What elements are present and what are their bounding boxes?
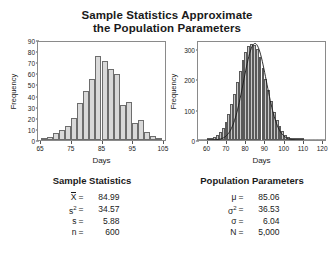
stats-value: 34.57 bbox=[86, 202, 120, 216]
population-bars bbox=[198, 42, 325, 140]
sample-x-tick-label: 95 bbox=[129, 145, 136, 152]
sample-x-tick-label: 75 bbox=[67, 145, 74, 152]
sample-x-tick-mark bbox=[40, 141, 41, 144]
population-plot-area bbox=[197, 41, 326, 141]
stats-exponent: 2 bbox=[73, 205, 76, 211]
sample-y-tick-label: 80 bbox=[28, 49, 35, 56]
sample-x-ticks: 65758595105 bbox=[37, 141, 166, 157]
sample-y-tick-label: 30 bbox=[28, 104, 35, 111]
population-stats-table: μ=85.06σ2=36.53σ=6.04N=5,000 bbox=[215, 191, 280, 238]
population-x-ticks: 60708090100110120 bbox=[197, 141, 326, 157]
population-x-tick-label: 80 bbox=[242, 145, 249, 152]
sample-x-axis-label: Days bbox=[37, 156, 166, 165]
sample-x-tick-mark bbox=[71, 141, 72, 144]
stats-symbol: s bbox=[55, 216, 77, 227]
figure-title: Sample Statistics Approximate the Popula… bbox=[0, 0, 334, 35]
stats-row: σ2=36.53 bbox=[215, 202, 280, 216]
sample-y-axis-label: Frequency bbox=[8, 41, 20, 141]
population-y-axis-label-text: Frequency bbox=[170, 73, 179, 108]
population-x-tick-mark bbox=[264, 141, 265, 144]
stats-row: s=5.88 bbox=[55, 216, 120, 227]
sample-x-tick-mark bbox=[132, 141, 133, 144]
population-x-tick-label: 120 bbox=[317, 145, 328, 152]
population-x-tick-mark bbox=[284, 141, 285, 144]
sample-y-tick-label: 70 bbox=[28, 60, 35, 67]
sample-y-tick-label: 10 bbox=[28, 126, 35, 133]
stats-row: s2=34.57 bbox=[55, 202, 120, 216]
stats-equals: = bbox=[237, 191, 246, 202]
sample-y-tick-label: 50 bbox=[28, 82, 35, 89]
sample-y-axis-label-text: Frequency bbox=[10, 73, 19, 108]
sample-x-tick-mark bbox=[163, 141, 164, 144]
stats-equals: = bbox=[77, 216, 86, 227]
stats-symbol: μ bbox=[215, 191, 237, 202]
population-y-axis-label: Frequency bbox=[168, 41, 180, 141]
title-line-2: the Population Parameters bbox=[0, 22, 334, 35]
population-y-ticks: 0100200300 bbox=[180, 41, 197, 141]
sample-y-tick-label: 40 bbox=[28, 93, 35, 100]
population-y-tick-label: 0 bbox=[191, 138, 195, 145]
population-x-tick-label: 100 bbox=[278, 145, 289, 152]
population-panel: Frequency 0100200300 60708090100110120 D… bbox=[168, 41, 326, 238]
stats-value: 85.06 bbox=[246, 191, 280, 202]
stats-value: 36.53 bbox=[246, 202, 280, 216]
stats-value: 5.88 bbox=[86, 216, 120, 227]
population-x-axis-label: Days bbox=[197, 156, 326, 165]
sample-x-tick-mark bbox=[102, 141, 103, 144]
stats-symbol: s2 bbox=[55, 202, 77, 216]
stats-value: 6.04 bbox=[246, 216, 280, 227]
population-y-tick-label: 300 bbox=[184, 47, 195, 54]
stats-row: n=600 bbox=[55, 227, 120, 238]
stats-equals: = bbox=[77, 202, 86, 216]
stats-symbol: σ bbox=[215, 216, 237, 227]
stats-symbol: n bbox=[55, 227, 77, 238]
stats-row: X=84.99 bbox=[55, 191, 120, 202]
stats-symbol: N bbox=[215, 227, 237, 238]
histogram-bar bbox=[301, 138, 304, 140]
sample-x-tick-label: 85 bbox=[98, 145, 105, 152]
population-y-tick-label: 200 bbox=[184, 77, 195, 84]
histogram-bar bbox=[156, 138, 162, 140]
sample-y-tick-label: 20 bbox=[28, 115, 35, 122]
population-x-tick-mark bbox=[226, 141, 227, 144]
population-y-tick-label: 100 bbox=[184, 107, 195, 114]
population-stats-heading: Population Parameters bbox=[178, 175, 326, 186]
stats-value: 84.99 bbox=[86, 191, 120, 202]
population-x-tick-label: 70 bbox=[222, 145, 229, 152]
sample-plot-area bbox=[37, 41, 166, 141]
stats-row: σ=6.04 bbox=[215, 216, 280, 227]
charts-row: Frequency 0102030405060708090 6575859510… bbox=[0, 41, 334, 238]
stats-equals: = bbox=[77, 227, 86, 238]
stats-value: 600 bbox=[86, 227, 120, 238]
stats-equals: = bbox=[237, 202, 246, 216]
sample-y-ticks: 0102030405060708090 bbox=[20, 41, 37, 141]
sample-stats-body: X=84.99s2=34.57s=5.88n=600 bbox=[55, 191, 120, 238]
sample-y-tick-label: 0 bbox=[31, 138, 35, 145]
population-stats-body: μ=85.06σ2=36.53σ=6.04N=5,000 bbox=[215, 191, 280, 238]
sample-x-tick-label: 65 bbox=[36, 145, 43, 152]
population-x-tick-label: 110 bbox=[298, 145, 308, 152]
stats-row: N=5,000 bbox=[215, 227, 280, 238]
population-x-tick-mark bbox=[245, 141, 246, 144]
stats-equals: = bbox=[77, 191, 86, 202]
sample-y-tick-label: 90 bbox=[28, 38, 35, 45]
sample-x-tick-label: 105 bbox=[157, 145, 168, 152]
population-x-tick-label: 60 bbox=[203, 145, 210, 152]
sample-bars bbox=[38, 42, 165, 140]
population-chart: Frequency 0100200300 bbox=[168, 41, 326, 141]
population-x-tick-mark bbox=[303, 141, 304, 144]
stats-symbol: X bbox=[55, 191, 77, 202]
title-line-1: Sample Statistics Approximate bbox=[0, 9, 334, 22]
stats-equals: = bbox=[237, 216, 246, 227]
population-x-tick-mark bbox=[207, 141, 208, 144]
sample-stats-table: X=84.99s2=34.57s=5.88n=600 bbox=[55, 191, 120, 238]
population-x-tick-label: 90 bbox=[261, 145, 268, 152]
stats-symbol: σ2 bbox=[215, 202, 237, 216]
sample-stats-heading: Sample Statistics bbox=[18, 175, 166, 186]
overbar bbox=[71, 192, 76, 193]
stats-value: 5,000 bbox=[246, 227, 280, 238]
stats-equals: = bbox=[237, 227, 246, 238]
stats-row: μ=85.06 bbox=[215, 191, 280, 202]
sample-chart: Frequency 0102030405060708090 bbox=[8, 41, 166, 141]
sample-y-tick-label: 60 bbox=[28, 71, 35, 78]
